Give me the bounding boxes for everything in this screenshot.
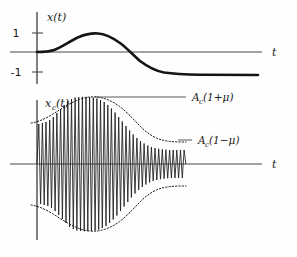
bottom-signal-label-tail: (t) [56, 97, 69, 110]
am-modulation-figure: 1 -1 x(t) t t x c (t) [0, 0, 297, 257]
bottom-signal-label: x [45, 97, 52, 110]
lower-envelope-curve [31, 186, 186, 231]
top-panel: 1 -1 x(t) t [10, 11, 277, 84]
top-time-axis-label: t [272, 46, 277, 59]
bottom-panel: t x c (t) A c (1+μ) A c (1−μ) [10, 91, 277, 240]
bottom-time-axis-label: t [272, 158, 277, 171]
message-signal-curve [37, 33, 258, 75]
top-ytick-label-1: 1 [13, 27, 20, 40]
lower-envelope-label-suffix: (1−μ) [209, 134, 240, 146]
top-ytick-label-minus1: -1 [11, 66, 22, 79]
upper-envelope-label-suffix: (1+μ) [203, 91, 234, 103]
figure-canvas: 1 -1 x(t) t t x c (t) [0, 0, 297, 257]
top-signal-label: x(t) [47, 11, 66, 24]
lower-envelope-label-group: A c (1−μ) [197, 134, 240, 149]
bottom-signal-label-group: x c (t) [45, 97, 69, 112]
upper-envelope-label-group: A c (1+μ) [191, 91, 234, 106]
